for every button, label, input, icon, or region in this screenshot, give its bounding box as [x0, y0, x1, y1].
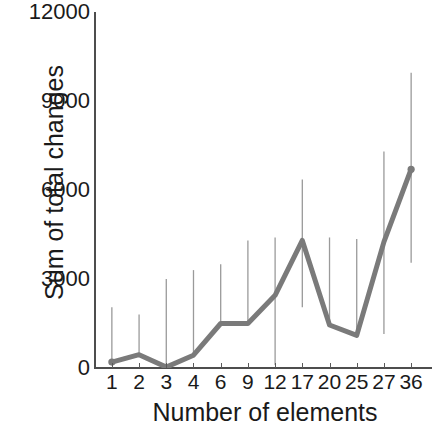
- x-axis-tick-mark: [384, 363, 385, 368]
- y-axis-tick-label: 12000: [4, 1, 90, 23]
- y-axis-tick-label: 0: [4, 357, 90, 379]
- plot-area: [95, 12, 431, 368]
- x-axis-tick-mark: [357, 363, 358, 368]
- x-axis-tick-mark: [411, 363, 412, 368]
- x-axis-tick-mark: [221, 363, 222, 368]
- data-point-marker: [408, 166, 415, 173]
- x-axis-tick-label: 36: [394, 371, 428, 393]
- x-axis-tick-mark: [330, 363, 331, 368]
- x-axis-tick-mark: [275, 363, 276, 368]
- chart-figure: Sum of total changes 030006000900012000 …: [0, 0, 438, 433]
- y-axis-tick-label: 9000: [4, 90, 90, 112]
- x-axis-tick-labels: 123469121720252736: [95, 371, 431, 397]
- line-chart-svg: [95, 12, 431, 368]
- y-axis-tick-label: 6000: [4, 179, 90, 201]
- x-axis-tick-mark: [112, 363, 113, 368]
- x-axis-title: Number of elements: [95, 398, 435, 427]
- y-axis-tick-labels: 030006000900012000: [0, 0, 90, 433]
- y-axis-tick-label: 3000: [4, 268, 90, 290]
- x-axis-tick-mark: [193, 363, 194, 368]
- x-axis-tick-mark: [166, 363, 167, 368]
- x-axis-tick-mark: [139, 363, 140, 368]
- data-series-line: [112, 169, 411, 367]
- x-axis-tick-mark: [302, 363, 303, 368]
- x-axis-tick-mark: [248, 363, 249, 368]
